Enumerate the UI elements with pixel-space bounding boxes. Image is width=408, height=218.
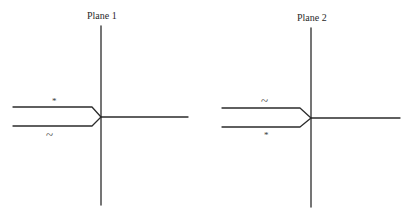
- plane-1-lines: [13, 26, 188, 205]
- plane-2-lower-incoming-line: [222, 118, 311, 127]
- plane-1-upper-incoming-line: [13, 107, 101, 117]
- diagram-lines: [0, 0, 408, 218]
- plane-1-upper-label: *: [52, 97, 57, 106]
- plane-2-upper-label: ~: [261, 94, 268, 107]
- plane-1-lower-incoming-line: [13, 117, 101, 126]
- plane-1-lower-label: ~: [46, 128, 53, 141]
- plane-2-lines: [222, 28, 400, 207]
- plane-1-title: Plane 1: [87, 10, 117, 21]
- plane-2-title: Plane 2: [297, 12, 327, 23]
- plane-2-upper-incoming-line: [222, 108, 311, 118]
- plane-2-lower-label: *: [264, 131, 269, 140]
